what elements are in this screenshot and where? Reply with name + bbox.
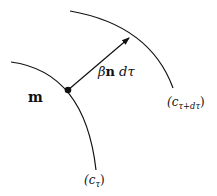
- label-tau: τ: [127, 64, 134, 79]
- outer-open: (c: [167, 95, 178, 109]
- point-m-dot: [65, 87, 72, 94]
- label-beta-n-dtau: βn dτ: [98, 65, 135, 78]
- inner-close: ): [100, 173, 105, 187]
- inner-curve-c-tau: [11, 62, 96, 170]
- label-c-tau: (cτ): [84, 174, 105, 189]
- label-beta: β: [98, 64, 106, 79]
- inner-open: (c: [84, 173, 95, 187]
- outer-subscript: τ+dτ: [178, 101, 200, 111]
- outer-close: ): [200, 95, 205, 109]
- label-c-tau-plus-dtau: (cτ+dτ): [167, 96, 205, 111]
- label-m: m: [28, 90, 43, 104]
- label-d: d: [115, 64, 127, 79]
- label-n: n: [106, 64, 115, 79]
- diagram-canvas: m βn dτ (cτ+dτ) (cτ): [0, 0, 217, 196]
